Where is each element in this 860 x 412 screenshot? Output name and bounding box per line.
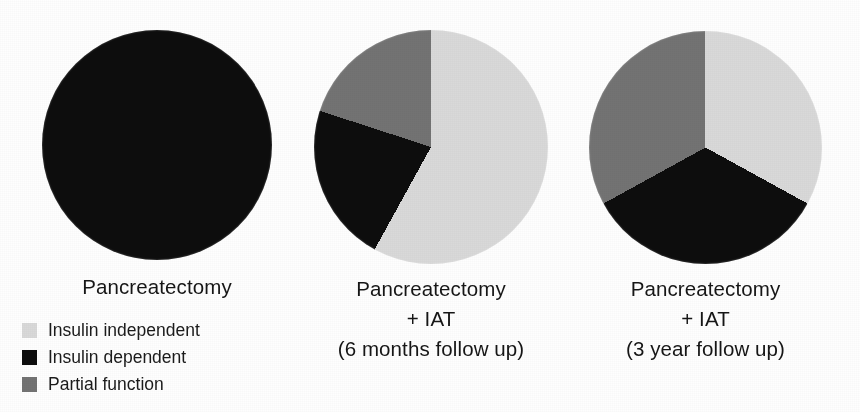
pie-chart-3-caption-line1: Pancreatectomy: [626, 274, 785, 304]
legend: Insulin independent Insulin dependent Pa…: [22, 318, 200, 399]
pie-chart-3-block: Pancreatectomy + IAT (3 year follow up): [589, 31, 822, 264]
pie-chart-2-caption-line1: Pancreatectomy: [338, 274, 525, 304]
pie-chart-2-caption-line2: + IAT: [338, 304, 525, 334]
pie-chart-3-caption-line2: + IAT: [626, 304, 785, 334]
legend-swatch-insulin-independent: [22, 323, 37, 338]
legend-label-insulin-independent: Insulin independent: [48, 320, 200, 341]
pie-chart-2-caption: Pancreatectomy + IAT (6 months follow up…: [338, 274, 525, 364]
legend-swatch-insulin-dependent: [22, 350, 37, 365]
legend-label-partial-function: Partial function: [48, 374, 164, 395]
pie-chart-1-caption: Pancreatectomy: [82, 272, 232, 302]
legend-swatch-partial-function: [22, 377, 37, 392]
pie-chart-figure: Pancreatectomy Pancreatectomy + IAT (6 m…: [0, 0, 860, 412]
legend-item-insulin-dependent: Insulin dependent: [22, 345, 200, 370]
legend-label-insulin-dependent: Insulin dependent: [48, 347, 186, 368]
pie-chart-2: [314, 30, 548, 264]
pie-chart-2-block: Pancreatectomy + IAT (6 months follow up…: [314, 30, 548, 264]
pie-chart-2-caption-line3: (6 months follow up): [338, 334, 525, 364]
pie-chart-1: [42, 30, 272, 260]
legend-item-partial-function: Partial function: [22, 372, 200, 397]
legend-item-insulin-independent: Insulin independent: [22, 318, 200, 343]
pie-chart-1-block: Pancreatectomy: [42, 30, 272, 260]
pie-chart-3-caption-line3: (3 year follow up): [626, 334, 785, 364]
pie-chart-3: [589, 31, 822, 264]
pie-chart-1-caption-line1: Pancreatectomy: [82, 272, 232, 302]
pie-chart-3-caption: Pancreatectomy + IAT (3 year follow up): [626, 274, 785, 364]
